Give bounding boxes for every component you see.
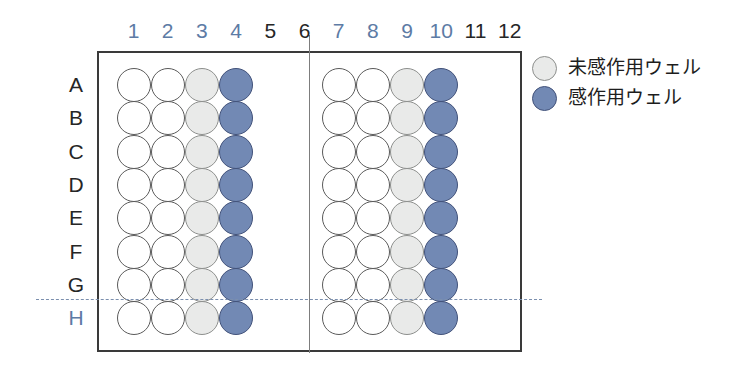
column-label-9: 9 (390, 18, 424, 44)
well-H3[interactable] (185, 301, 219, 335)
legend-swatch-sensitized-icon (532, 86, 557, 111)
column-label-1: 1 (117, 18, 151, 44)
well-C3[interactable] (185, 135, 219, 169)
well-E8[interactable] (356, 201, 390, 235)
row-label-E: E (62, 205, 90, 231)
well-E3[interactable] (185, 201, 219, 235)
column-label-8: 8 (356, 18, 390, 44)
well-G8[interactable] (356, 268, 390, 302)
well-E2[interactable] (151, 201, 185, 235)
well-C10[interactable] (424, 135, 458, 169)
well-D2[interactable] (151, 168, 185, 202)
column-label-3: 3 (185, 18, 219, 44)
well-G1[interactable] (117, 268, 151, 302)
legend: 未感作用ウェル感作用ウェル (532, 54, 744, 114)
well-G3[interactable] (185, 268, 219, 302)
well-C7[interactable] (322, 135, 356, 169)
well-A9[interactable] (390, 68, 424, 102)
column-label-10: 10 (424, 18, 458, 44)
well-F1[interactable] (117, 235, 151, 269)
well-F4[interactable] (219, 235, 253, 269)
well-C4[interactable] (219, 135, 253, 169)
well-C1[interactable] (117, 135, 151, 169)
row-label-A: A (62, 72, 90, 98)
row-label-H: H (62, 305, 90, 331)
well-E1[interactable] (117, 201, 151, 235)
row-label-F: F (62, 239, 90, 265)
well-H7[interactable] (322, 301, 356, 335)
well-A3[interactable] (185, 68, 219, 102)
well-C9[interactable] (390, 135, 424, 169)
well-H2[interactable] (151, 301, 185, 335)
well-A4[interactable] (219, 68, 253, 102)
legend-swatch-unsensitized-icon (532, 56, 557, 81)
well-B3[interactable] (185, 101, 219, 135)
well-G4[interactable] (219, 268, 253, 302)
well-A2[interactable] (151, 68, 185, 102)
well-D10[interactable] (424, 168, 458, 202)
well-B1[interactable] (117, 101, 151, 135)
well-D1[interactable] (117, 168, 151, 202)
well-D4[interactable] (219, 168, 253, 202)
column-label-11: 11 (459, 18, 493, 44)
well-G2[interactable] (151, 268, 185, 302)
well-C8[interactable] (356, 135, 390, 169)
well-G10[interactable] (424, 268, 458, 302)
well-D3[interactable] (185, 168, 219, 202)
column-label-7: 7 (322, 18, 356, 44)
well-H8[interactable] (356, 301, 390, 335)
well-E7[interactable] (322, 201, 356, 235)
plate-diagram: 123456789101112 ABCDEFGH 未感作用ウェル感作用ウェル (0, 0, 750, 390)
well-A8[interactable] (356, 68, 390, 102)
legend-item-sensitized: 感作用ウェル (532, 84, 744, 112)
well-C2[interactable] (151, 135, 185, 169)
well-H1[interactable] (117, 301, 151, 335)
column-label-12: 12 (493, 18, 527, 44)
well-D9[interactable] (390, 168, 424, 202)
row-label-D: D (62, 172, 90, 198)
well-B2[interactable] (151, 101, 185, 135)
legend-item-unsensitized: 未感作用ウェル (532, 54, 744, 82)
legend-label-unsensitized: 未感作用ウェル (568, 56, 701, 80)
well-H9[interactable] (390, 301, 424, 335)
well-A7[interactable] (322, 68, 356, 102)
well-F2[interactable] (151, 235, 185, 269)
row-label-C: C (62, 139, 90, 165)
well-H4[interactable] (219, 301, 253, 335)
well-F8[interactable] (356, 235, 390, 269)
well-F9[interactable] (390, 235, 424, 269)
row-label-G: G (62, 272, 90, 298)
well-B8[interactable] (356, 101, 390, 135)
legend-label-sensitized: 感作用ウェル (568, 86, 682, 110)
row-g-h-separator-line (36, 299, 542, 300)
column-label-4: 4 (219, 18, 253, 44)
well-D8[interactable] (356, 168, 390, 202)
well-G9[interactable] (390, 268, 424, 302)
column-label-5: 5 (253, 18, 287, 44)
well-F3[interactable] (185, 235, 219, 269)
well-A1[interactable] (117, 68, 151, 102)
well-F10[interactable] (424, 235, 458, 269)
column-label-6: 6 (288, 18, 322, 44)
well-B7[interactable] (322, 101, 356, 135)
column-label-2: 2 (151, 18, 185, 44)
well-D7[interactable] (322, 168, 356, 202)
group-divider-line (309, 35, 310, 353)
row-label-B: B (62, 105, 90, 131)
well-G7[interactable] (322, 268, 356, 302)
well-F7[interactable] (322, 235, 356, 269)
